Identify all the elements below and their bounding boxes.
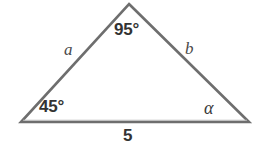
right-angle-alpha-label: α <box>204 99 213 117</box>
base-length-label: 5 <box>123 127 132 144</box>
left-angle-label: 45° <box>39 98 64 115</box>
side-a-label: a <box>64 41 73 58</box>
triangle-figure: 95° a b 45° α 5 <box>0 0 264 151</box>
apex-angle-label: 95° <box>114 21 139 38</box>
side-b-label: b <box>185 40 194 57</box>
